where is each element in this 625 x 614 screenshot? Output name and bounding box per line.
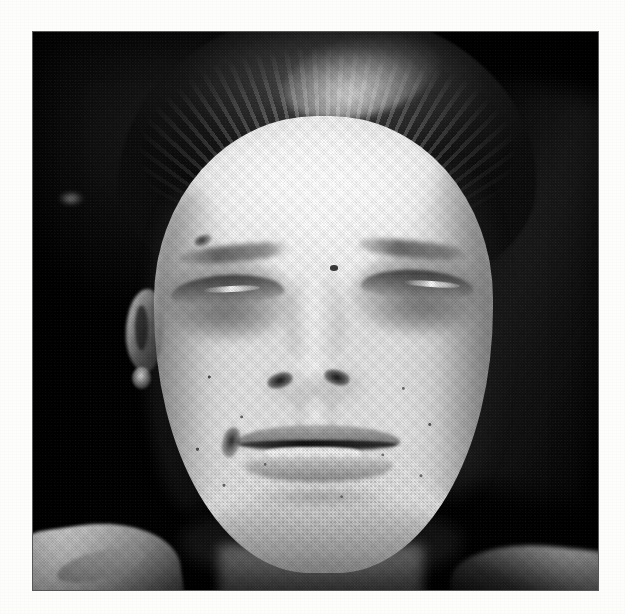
glabellar-mole	[330, 265, 337, 271]
subject-portrait	[33, 32, 598, 590]
clinical-photograph	[33, 32, 598, 590]
shoulder	[448, 537, 598, 590]
scanned-page	[0, 0, 625, 614]
infraorbital-shadow-left	[169, 303, 276, 339]
skin-lesions	[174, 339, 468, 529]
ear-canal-left	[135, 305, 149, 350]
neck	[219, 545, 422, 590]
forehead-highlight	[203, 132, 440, 238]
earlobe-left	[132, 367, 151, 389]
